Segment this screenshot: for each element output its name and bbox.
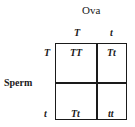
cell-TT: TT — [70, 47, 82, 58]
row-allele-t: t — [44, 108, 47, 119]
cell-tt: tt — [108, 108, 114, 119]
sperm-label: Sperm — [4, 77, 32, 88]
column-allele-T: T — [74, 27, 80, 38]
cell-Tt-top: Tt — [107, 47, 116, 58]
column-allele-t: t — [110, 27, 113, 38]
cell-Tt-bottom: Tt — [71, 108, 80, 119]
grid-horizontal-divider — [55, 82, 127, 84]
ova-label: Ova — [82, 4, 100, 16]
row-allele-T: T — [44, 47, 50, 58]
